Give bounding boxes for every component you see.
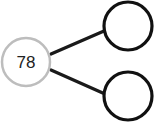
number-bond-diagram: 78 [0,0,156,135]
whole-value: 78 [17,53,36,72]
connector-top [51,31,104,54]
connector-bottom [51,70,105,94]
whole-circle: 78 [2,38,50,86]
part-circle-bottom[interactable] [104,72,152,120]
part-circle-top[interactable] [104,2,152,50]
